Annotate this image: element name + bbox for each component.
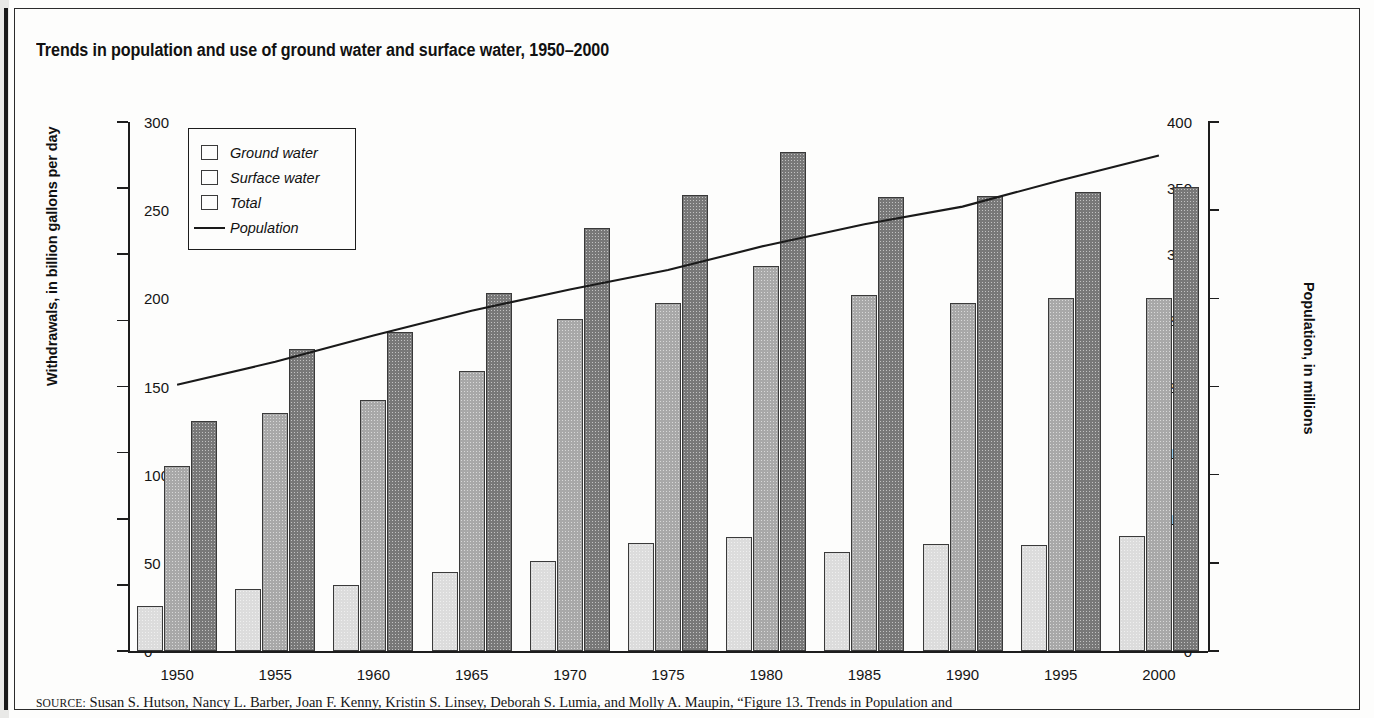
y-axis-left-tick — [117, 121, 128, 123]
x-axis-tick-label: 1960 — [357, 666, 390, 683]
y-axis-right-tick — [1208, 650, 1219, 652]
y-axis-right-tick-label: 250 — [144, 202, 169, 219]
bar-ground-water-1960 — [333, 585, 359, 651]
bar-surface-water-1960 — [360, 400, 386, 651]
bar-total-1990 — [977, 196, 1003, 651]
legend-swatch-ground-water — [201, 145, 218, 160]
y-axis-right-tick-label: 200 — [144, 290, 169, 307]
bar-ground-water-1950 — [137, 606, 163, 651]
bar-surface-water-1985 — [851, 295, 877, 651]
bar-ground-water-1970 — [530, 561, 556, 651]
bar-total-1965 — [486, 293, 512, 651]
legend-label-population: Population — [230, 220, 299, 236]
page-edge-bar — [0, 0, 9, 718]
x-axis-tick-label: 1970 — [553, 666, 586, 683]
x-axis-tick-label: 1955 — [259, 666, 292, 683]
bar-surface-water-1965 — [459, 371, 485, 651]
y-axis-left-tick — [117, 452, 128, 454]
bar-total-1970 — [584, 228, 610, 651]
y-axis-right-tick — [1208, 474, 1219, 476]
y-axis-left-tick — [117, 320, 128, 322]
chart-legend: Ground water Surface water Total Populat… — [188, 128, 356, 250]
legend-item-ground-water: Ground water — [201, 140, 345, 165]
bar-total-1995 — [1075, 192, 1101, 651]
legend-label-total: Total — [230, 195, 261, 211]
legend-label-surface-water: Surface water — [230, 170, 319, 186]
bar-total-1960 — [387, 332, 413, 651]
x-axis-tick-label: 1985 — [848, 666, 881, 683]
bar-surface-water-1975 — [655, 303, 681, 651]
y-axis-right-tick-label: 50 — [144, 554, 161, 571]
source-prefix: SOURCE: — [36, 697, 86, 709]
bar-total-1980 — [780, 152, 806, 651]
x-axis-tick-label: 1990 — [946, 666, 979, 683]
x-axis-line — [128, 651, 1208, 653]
bar-surface-water-1995 — [1048, 298, 1074, 651]
y-axis-right-tick — [1208, 562, 1219, 564]
legend-label-ground-water: Ground water — [230, 145, 318, 161]
source-text: Susan S. Hutson, Nancy L. Barber, Joan F… — [90, 694, 953, 710]
x-axis-tick-label: 1995 — [1044, 666, 1077, 683]
bar-ground-water-2000 — [1119, 536, 1145, 651]
bar-ground-water-1985 — [824, 552, 850, 651]
legend-item-surface-water: Surface water — [201, 165, 345, 190]
page-title: Trends in population and use of ground w… — [36, 40, 609, 61]
bar-total-1955 — [289, 349, 315, 651]
y-axis-left-line — [128, 122, 130, 651]
bar-total-1975 — [682, 195, 708, 651]
bar-surface-water-1980 — [753, 266, 779, 651]
y-axis-left-tick — [117, 187, 128, 189]
y-axis-right-tick — [1208, 121, 1219, 123]
bar-total-1985 — [878, 197, 904, 651]
x-axis-tick-label: 1950 — [160, 666, 193, 683]
y-axis-right-tick-label: 300 — [144, 114, 169, 131]
bar-total-1950 — [191, 421, 217, 651]
legend-item-total: Total — [201, 190, 345, 215]
y-axis-right-tick-label: 150 — [144, 378, 169, 395]
y-axis-left-tick — [117, 650, 128, 652]
bar-surface-water-1970 — [557, 319, 583, 651]
figure-container: Trends in population and use of ground w… — [0, 0, 1374, 718]
x-axis-tick-label: 1980 — [749, 666, 782, 683]
y-axis-left-title: Withdrawals, in billion gallons per day — [44, 127, 60, 386]
y-axis-left-tick — [117, 518, 128, 520]
bar-ground-water-1975 — [628, 543, 654, 651]
x-axis-tick-label: 1965 — [455, 666, 488, 683]
y-axis-right-title: Population, in millions — [1301, 282, 1317, 434]
y-axis-right-tick — [1208, 298, 1219, 300]
source-note: SOURCE: Susan S. Hutson, Nancy L. Barber… — [36, 694, 1346, 711]
bar-ground-water-1995 — [1021, 545, 1047, 651]
legend-swatch-total — [201, 195, 218, 210]
y-axis-left-tick — [117, 253, 128, 255]
y-axis-left-tick — [117, 584, 128, 586]
legend-swatch-surface-water — [201, 170, 218, 185]
y-axis-right-tick — [1208, 386, 1219, 388]
y-axis-right-tick — [1208, 209, 1219, 211]
bar-surface-water-1990 — [950, 303, 976, 651]
y-axis-left-tick-label: 400 — [1167, 114, 1192, 131]
bar-surface-water-1950 — [164, 466, 190, 651]
bar-ground-water-1990 — [923, 544, 949, 651]
bar-ground-water-1955 — [235, 589, 261, 651]
legend-line-population — [201, 220, 218, 235]
x-axis-tick-label: 1975 — [651, 666, 684, 683]
y-axis-left-tick — [117, 386, 128, 388]
bar-ground-water-1980 — [726, 537, 752, 651]
bar-surface-water-2000 — [1146, 298, 1172, 651]
bar-surface-water-1955 — [262, 413, 288, 651]
bar-ground-water-1965 — [432, 572, 458, 651]
x-axis-tick-label: 2000 — [1142, 666, 1175, 683]
bar-total-2000 — [1173, 187, 1199, 651]
legend-item-population: Population — [201, 215, 345, 240]
